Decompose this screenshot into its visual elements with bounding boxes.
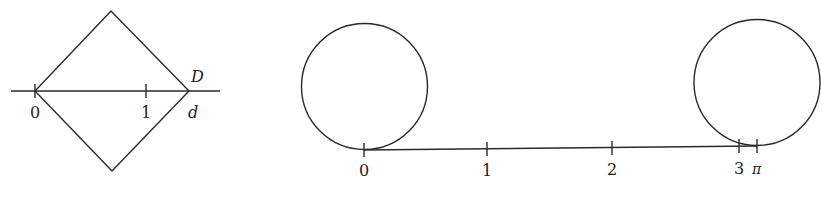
label-1-right: 1: [482, 161, 492, 180]
circle-end: [694, 20, 820, 146]
label-d: d: [188, 103, 198, 122]
label-1-left: 1: [141, 103, 151, 122]
diagram-canvas: 0 1 d D 0 1 2 3 π: [0, 0, 822, 217]
label-3-right: 3: [734, 159, 744, 178]
diamond-figure: 0 1 d D: [11, 11, 220, 171]
number-line-right: [364, 146, 757, 150]
label-D: D: [190, 67, 204, 86]
label-0-right: 0: [359, 161, 369, 180]
circle-start: [302, 24, 428, 150]
label-pi-right: π: [751, 161, 762, 177]
label-0-left: 0: [30, 103, 40, 122]
label-2-right: 2: [607, 160, 617, 179]
rolling-circle-figure: 0 1 2 3 π: [302, 20, 821, 181]
